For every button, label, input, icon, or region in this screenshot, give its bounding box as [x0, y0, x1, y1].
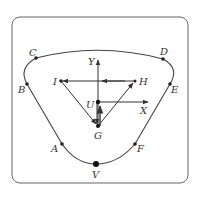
closed-curve	[24, 50, 174, 164]
label-c: C	[29, 47, 37, 58]
label-f: F	[136, 143, 145, 154]
point-a	[60, 142, 64, 146]
label-d: D	[159, 46, 168, 57]
point-d	[161, 57, 165, 61]
diagram-svg: C D B E A F V I H U G Y X	[0, 0, 198, 198]
point-v	[93, 161, 99, 167]
label-e: E	[170, 84, 179, 95]
label-a: A	[50, 143, 58, 154]
label-u: U	[86, 99, 95, 110]
label-v: V	[92, 169, 101, 180]
label-x-axis: X	[139, 105, 148, 116]
point-u	[96, 100, 100, 104]
label-h: H	[138, 76, 148, 87]
point-h	[134, 80, 137, 83]
diagram-canvas: C D B E A F V I H U G Y X	[0, 0, 198, 198]
point-g	[96, 124, 100, 128]
label-b: B	[17, 84, 25, 95]
point-i	[59, 79, 63, 83]
point-b	[25, 82, 29, 86]
label-i: I	[52, 76, 58, 87]
label-y-axis: Y	[88, 56, 96, 67]
frame-border	[12, 17, 188, 183]
label-g: G	[94, 130, 102, 141]
vector-g-to-h	[98, 83, 133, 126]
